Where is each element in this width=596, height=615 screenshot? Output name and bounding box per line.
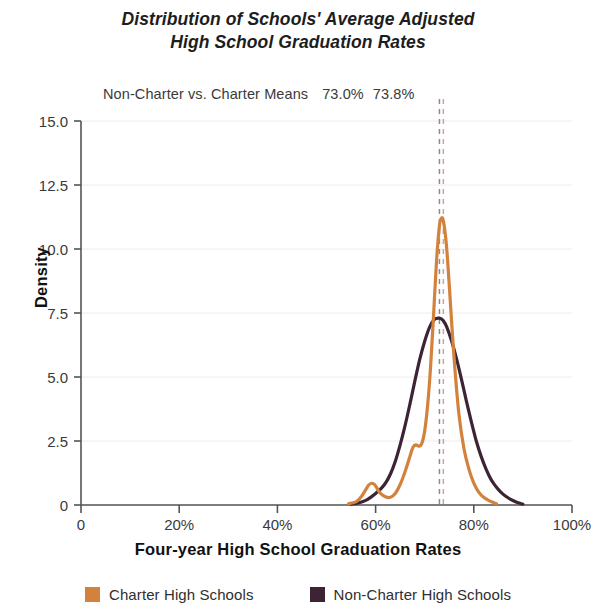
legend-swatch-icon: [310, 587, 325, 602]
density-curve: [351, 318, 523, 504]
legend-item[interactable]: Non-Charter High Schools: [310, 586, 511, 603]
x-axis-tick-label: 0: [77, 516, 85, 533]
legend-swatch-icon: [85, 587, 100, 602]
density-curve: [349, 218, 497, 504]
y-axis-tick-label: 12.5: [8, 177, 68, 194]
x-axis-tick-label: 60%: [361, 516, 391, 533]
x-axis-tick-label: 100%: [553, 516, 591, 533]
chart-figure: Distribution of Schools' Average Adjuste…: [0, 0, 596, 615]
x-axis-title: Four-year High School Graduation Rates: [0, 540, 596, 559]
y-axis-tick-label: 0: [8, 497, 68, 514]
legend-label: Charter High Schools: [109, 586, 254, 603]
y-axis-tick-label: 5.0: [8, 369, 68, 386]
plot-canvas: [0, 0, 596, 615]
y-axis-title: Density: [32, 223, 51, 333]
legend-label: Non-Charter High Schools: [334, 586, 511, 603]
x-axis-tick-label: 20%: [164, 516, 194, 533]
y-axis-tick-label: 15.0: [8, 113, 68, 130]
y-axis-tick-label: 2.5: [8, 433, 68, 450]
x-axis-tick-label: 80%: [459, 516, 489, 533]
legend-item[interactable]: Charter High Schools: [85, 586, 254, 603]
x-axis-tick-label: 40%: [262, 516, 292, 533]
chart-legend: Charter High SchoolsNon-Charter High Sch…: [0, 586, 596, 603]
